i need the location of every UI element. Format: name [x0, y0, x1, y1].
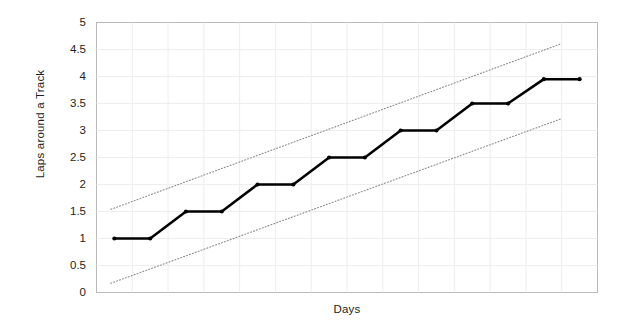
line-chart: Laps around a Track 5 4.5 4 3.5 3 2.5 2 …	[0, 0, 629, 333]
x-axis-title: Days	[96, 303, 598, 315]
plot-area	[0, 0, 629, 333]
